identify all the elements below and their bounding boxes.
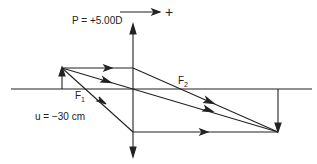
focal-point-f1-label: F1 <box>75 91 85 103</box>
ray-arrowhead-icon <box>203 106 213 112</box>
f2-subscript: 2 <box>184 81 188 88</box>
lens-top-arrow-icon <box>130 24 136 34</box>
ray-focal-incident <box>62 68 133 132</box>
ray-arrowhead-icon <box>97 97 106 104</box>
focal-point-f2-label: F2 <box>178 76 188 88</box>
f1-subscript: 1 <box>81 96 85 103</box>
ray-central <box>62 68 278 132</box>
ray-diagram: P = +5.00D + F1 F2 u = −30 cm <box>0 0 317 164</box>
lens-bottom-arrow-icon <box>130 147 136 157</box>
ray-diagram-svg <box>0 0 317 164</box>
object-distance-label: u = −30 cm <box>35 112 85 122</box>
lens-power-label: P = +5.00D <box>72 16 122 26</box>
positive-direction-label: + <box>165 5 173 19</box>
ray-parallel-refracted <box>133 68 278 132</box>
